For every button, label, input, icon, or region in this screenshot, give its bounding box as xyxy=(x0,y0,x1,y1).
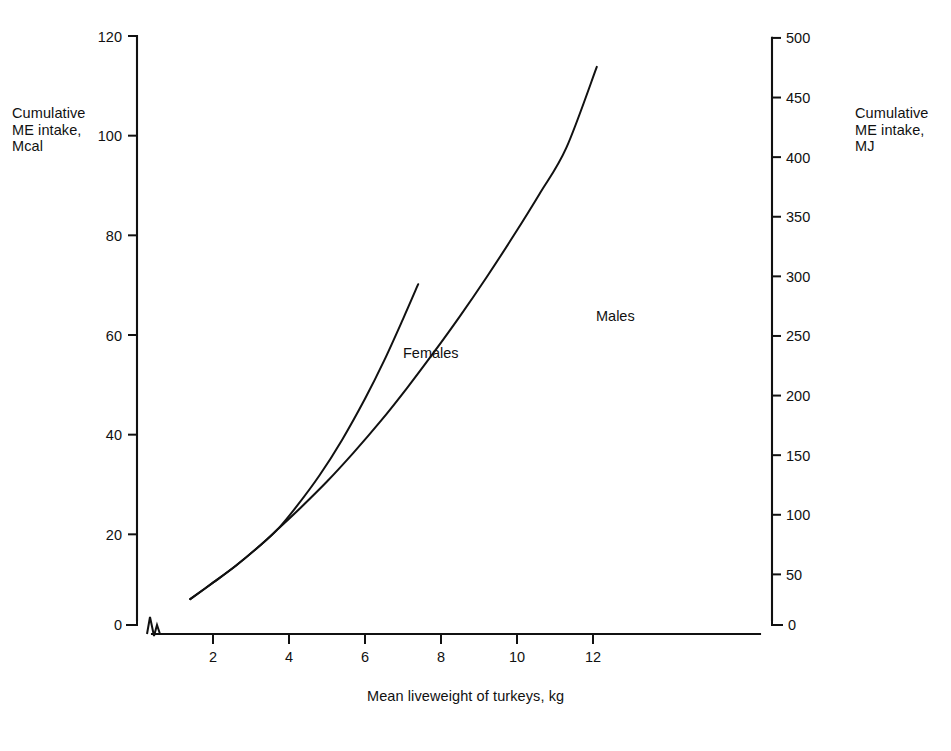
x-axis: 24681012 xyxy=(147,617,760,665)
y-axis-right: 050100150200250300350400450500 xyxy=(772,30,810,633)
y-tick-label-right: 250 xyxy=(786,328,810,344)
plot-area: 020406080100120 050100150200250300350400… xyxy=(0,0,951,751)
y-tick-label-left: 80 xyxy=(106,228,122,244)
y-tick-label-right: 400 xyxy=(786,150,810,166)
y-tick-label-right: 150 xyxy=(786,448,810,464)
y-tick-label-right: 450 xyxy=(786,90,810,106)
x-tick-label: 4 xyxy=(285,649,293,665)
y-tick-label-left: 60 xyxy=(106,328,122,344)
data-curves xyxy=(190,67,597,599)
curve-males xyxy=(190,67,597,599)
y-tick-label-right: 100 xyxy=(786,507,810,523)
x-tick-label: 8 xyxy=(437,649,445,665)
x-tick-label: 2 xyxy=(209,649,217,665)
y-tick-label-left: 100 xyxy=(98,128,122,144)
y-tick-label-left: 0 xyxy=(114,617,122,633)
y-tick-label-left: 20 xyxy=(106,527,122,543)
x-tick-label: 10 xyxy=(509,649,525,665)
y-tick-label-right: 200 xyxy=(786,388,810,404)
chart-figure: Cumulative ME intake, Mcal Cumulative ME… xyxy=(0,0,951,751)
x-tick-label: 12 xyxy=(585,649,601,665)
y-tick-label-left: 120 xyxy=(98,29,122,45)
y-axis-left: 020406080100120 xyxy=(98,29,137,634)
y-tick-label-right: 300 xyxy=(786,269,810,285)
curve-females xyxy=(190,284,418,599)
y-tick-label-right: 50 xyxy=(786,567,802,583)
x-tick-label: 6 xyxy=(361,649,369,665)
y-tick-label-right: 500 xyxy=(786,30,810,46)
y-tick-label-right: 350 xyxy=(786,209,810,225)
y-tick-label-left: 40 xyxy=(106,427,122,443)
y-tick-label-right: 0 xyxy=(788,617,796,633)
